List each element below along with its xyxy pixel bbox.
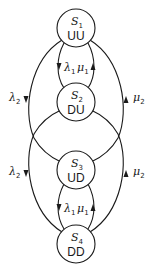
rate-label: μ2	[133, 165, 145, 180]
rate-label: λ2	[8, 165, 20, 180]
node-s4: S4 DD	[57, 225, 95, 263]
node-s3: S3 UD	[57, 151, 95, 189]
rate-label: λ1	[63, 202, 75, 217]
rate-label: μ1	[77, 61, 89, 76]
arrow-up-icon	[124, 170, 129, 177]
node-label: UD	[67, 171, 85, 185]
rate-label: λ2	[8, 91, 20, 106]
arrow-up-icon	[91, 63, 96, 70]
rate-label: μ1	[77, 202, 89, 217]
arrow-down-icon	[24, 96, 29, 103]
rate-label: λ1	[63, 61, 75, 76]
node-label: UU	[67, 29, 84, 43]
arrow-up-icon	[124, 96, 129, 103]
arrow-up-icon	[91, 204, 96, 211]
node-label: DD	[67, 245, 85, 259]
rate-label: μ2	[133, 91, 145, 106]
node-label: DU	[67, 103, 84, 117]
arrow-down-icon	[57, 204, 62, 211]
node-s2: S2 DU	[57, 83, 95, 121]
arrow-down-icon	[24, 170, 29, 177]
arrow-down-icon	[57, 63, 62, 70]
state-diagram: λ1 μ1 λ1 μ1 λ2 μ2 λ2 μ2 S1 UU S2 DU S3 U…	[0, 0, 151, 272]
node-s1: S1 UU	[57, 9, 95, 47]
